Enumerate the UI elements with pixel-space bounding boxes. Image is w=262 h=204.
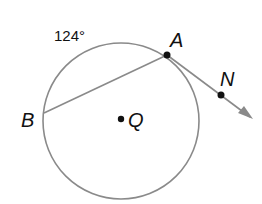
point-a	[164, 52, 171, 59]
label-q: Q	[128, 109, 144, 131]
arc-measure-label: 124°	[54, 27, 85, 44]
label-a: A	[169, 29, 183, 51]
ray-an	[167, 55, 250, 117]
point-n	[218, 92, 225, 99]
chord-ba	[44, 55, 167, 113]
label-n: N	[220, 68, 235, 90]
label-b: B	[21, 109, 34, 131]
point-q	[118, 116, 124, 122]
ray-arrowhead-icon	[238, 106, 253, 119]
geometry-diagram: 124° A B N Q	[0, 0, 262, 204]
